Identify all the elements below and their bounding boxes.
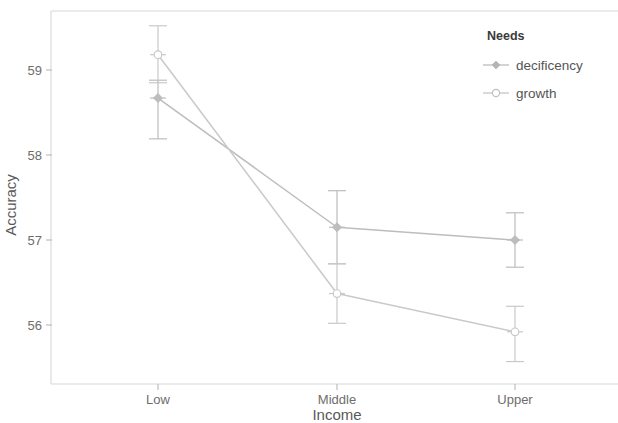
legend-title: Needs	[487, 29, 525, 43]
data-point-diamond	[511, 236, 519, 244]
x-tick-label-middle: Middle	[318, 392, 356, 407]
y-tick-label-59: 59	[28, 63, 42, 78]
y-axis-title: Accuracy	[2, 174, 19, 236]
x-axis-title: Income	[312, 406, 361, 423]
data-point-circle	[154, 51, 162, 59]
x-tick-label-low: Low	[146, 392, 170, 407]
data-point-circle	[333, 290, 341, 298]
y-tick-label-56: 56	[28, 318, 42, 333]
y-tick-label-57: 57	[28, 233, 42, 248]
legend: Needs decificency growth	[483, 29, 583, 101]
y-axis-ticks: 59 58 57 56	[28, 63, 52, 333]
y-tick-label-58: 58	[28, 148, 42, 163]
x-axis-ticks: Low Middle Upper	[146, 384, 533, 407]
legend-label-decificency: decificency	[516, 58, 583, 73]
interaction-plot: 59 58 57 56 Accuracy Low Middle Upper In…	[0, 0, 618, 423]
legend-label-growth: growth	[516, 86, 557, 101]
chart-screenshot: 59 58 57 56 Accuracy Low Middle Upper In…	[0, 0, 618, 423]
x-tick-label-upper: Upper	[497, 392, 533, 407]
circle-open-icon	[492, 89, 499, 96]
diamond-icon	[492, 61, 500, 69]
data-point-circle	[511, 328, 519, 336]
legend-entry-decificency[interactable]: decificency	[483, 58, 583, 73]
legend-entry-growth[interactable]: growth	[483, 86, 557, 101]
errorbars-decificency	[149, 80, 524, 267]
